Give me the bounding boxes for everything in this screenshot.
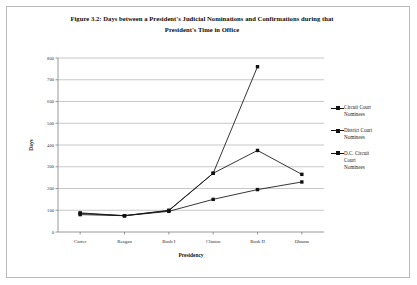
x-axis-tick-label: Clinton — [206, 239, 221, 244]
y-axis-title: Days — [28, 139, 34, 150]
legend-label-line-1: District Court — [344, 127, 372, 133]
legend-item-dc-circuit-court[interactable]: D.C. Circuit Court Nominees — [331, 150, 409, 172]
data-point-marker — [167, 209, 170, 212]
legend-item-circuit-court[interactable]: Circuit Court Nominees — [331, 104, 409, 119]
data-point-marker — [300, 180, 303, 183]
x-axis-title: Presidency — [178, 252, 203, 258]
data-point-marker — [300, 173, 303, 176]
y-axis-tick-label: 800 — [47, 56, 55, 61]
y-axis-tick-label: 100 — [47, 208, 55, 213]
legend-label-line-2: Nominees — [344, 134, 365, 140]
y-axis-tick-label: 300 — [47, 164, 55, 169]
x-axis-tick-label: Bush II — [250, 239, 265, 244]
series-line-0 — [80, 67, 257, 216]
data-point-marker — [211, 172, 214, 175]
chart-legend: Circuit Court Nominees District Court No… — [331, 104, 409, 180]
y-axis-tick-label: 400 — [47, 143, 55, 148]
x-axis-tick-label: Bush I — [162, 239, 175, 244]
legend-item-district-court[interactable]: District Court Nominees — [331, 127, 409, 142]
legend-label-line-3: Nominees — [344, 164, 365, 170]
x-axis-tick-label: Carter — [74, 239, 87, 244]
data-point-marker — [256, 65, 259, 68]
y-axis-tick-label: 600 — [47, 99, 55, 104]
data-point-marker — [256, 149, 259, 152]
legend-label-line-2: Court — [344, 157, 356, 163]
data-point-marker — [123, 214, 126, 217]
legend-label: D.C. Circuit Court Nominees — [344, 150, 369, 172]
series-line-2 — [80, 150, 302, 215]
data-point-marker — [78, 211, 81, 214]
legend-label-line-1: Circuit Court — [344, 104, 371, 110]
data-point-marker — [256, 188, 259, 191]
legend-label: District Court Nominees — [344, 127, 372, 142]
legend-label-line-1: D.C. Circuit — [344, 150, 369, 156]
legend-marker-icon — [331, 150, 344, 157]
series-line-1 — [80, 182, 302, 216]
legend-marker-icon — [331, 127, 344, 134]
y-axis-tick-label: 200 — [47, 186, 55, 191]
y-axis-tick-label: 500 — [47, 121, 55, 126]
legend-label-line-2: Nominees — [344, 111, 365, 117]
x-axis-tick-label: Obama — [295, 239, 310, 244]
y-axis-tick-label: 0 — [52, 230, 55, 235]
data-point-marker — [211, 198, 214, 201]
legend-marker-icon — [331, 105, 344, 112]
y-axis-tick-label: 700 — [47, 77, 55, 82]
x-axis-tick-label: Reagan — [117, 239, 132, 244]
legend-label: Circuit Court Nominees — [344, 104, 371, 119]
